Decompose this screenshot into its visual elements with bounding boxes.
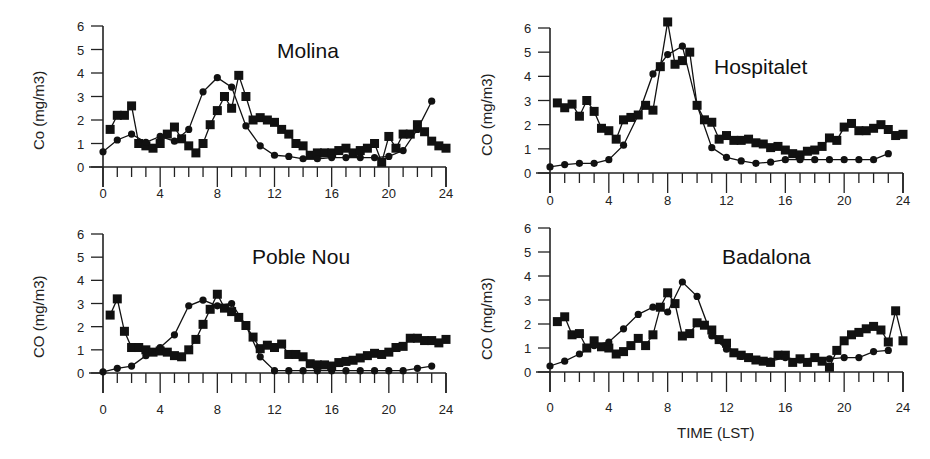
square-marker xyxy=(891,306,900,315)
square-marker xyxy=(560,312,569,321)
x-tick-label: 4 xyxy=(605,400,612,415)
x-tick-label: 12 xyxy=(719,400,733,415)
y-tick-label: 5 xyxy=(524,245,531,260)
circle-marker xyxy=(620,325,627,332)
circle-marker xyxy=(591,342,598,349)
circle-marker xyxy=(723,346,730,353)
circle-marker xyxy=(664,308,671,315)
y-tick-label: 2 xyxy=(524,317,531,332)
y-axis-label: CO (mg/m3) xyxy=(478,278,495,361)
y-tick-label: 3 xyxy=(524,293,531,308)
square-marker xyxy=(575,329,584,338)
y-tick-label: 4 xyxy=(524,269,531,284)
axes: 012345604812162024 xyxy=(524,221,910,415)
square-marker xyxy=(685,329,694,338)
y-tick-label: 0 xyxy=(524,365,531,380)
square-marker xyxy=(663,288,672,297)
circle-marker xyxy=(885,347,892,354)
circle-marker xyxy=(796,356,803,363)
circle-marker xyxy=(649,304,656,311)
circle-marker xyxy=(870,348,877,355)
circle-marker xyxy=(841,354,848,361)
circle-marker xyxy=(826,355,833,362)
square-marker xyxy=(825,363,834,372)
square-marker xyxy=(648,330,657,339)
circle-marker xyxy=(635,311,642,318)
circle-marker xyxy=(738,353,745,360)
circle-marker xyxy=(605,338,612,345)
circle-marker xyxy=(811,354,818,361)
y-tick-label: 1 xyxy=(524,341,531,356)
plot-area: 012345604812162024 xyxy=(0,0,930,459)
x-tick-label: 20 xyxy=(837,400,851,415)
circle-marker xyxy=(576,350,583,357)
square-marker xyxy=(832,346,841,355)
circle-marker xyxy=(752,356,759,363)
chart-title: Badalona xyxy=(722,245,811,269)
circle-marker xyxy=(561,358,568,365)
series-squares xyxy=(553,288,908,371)
circle-marker xyxy=(782,354,789,361)
circle-marker xyxy=(855,354,862,361)
circle-marker xyxy=(546,362,553,369)
circle-marker xyxy=(693,293,700,300)
square-marker xyxy=(876,326,885,335)
square-marker xyxy=(641,341,650,350)
circle-marker xyxy=(679,278,686,285)
circle-marker xyxy=(767,358,774,365)
y-tick-label: 6 xyxy=(524,221,531,236)
series-circles xyxy=(546,278,891,369)
x-tick-label: 24 xyxy=(896,400,910,415)
x-tick-label: 0 xyxy=(546,400,553,415)
x-axis-label: TIME (LST) xyxy=(677,424,755,441)
x-tick-label: 8 xyxy=(664,400,671,415)
chart-panel-badalona: 012345604812162024 Badalona CO (mg/m3) T… xyxy=(0,0,930,459)
x-tick-label: 16 xyxy=(778,400,792,415)
circle-marker xyxy=(708,332,715,339)
square-marker xyxy=(899,336,908,345)
square-marker xyxy=(884,338,893,347)
